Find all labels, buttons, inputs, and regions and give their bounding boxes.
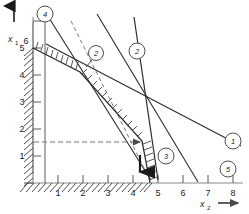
callout-1-label: 1	[231, 137, 235, 146]
x-tick-label-8: 8	[230, 188, 235, 198]
y-tick-labels: 1 2 3 4 5 6	[19, 36, 28, 161]
x-tick-label-5: 5	[155, 188, 160, 198]
callout-2a-label: 2	[134, 47, 140, 56]
x-axis-ticks	[58, 175, 233, 183]
x-tick-label-7: 7	[205, 188, 210, 198]
x-tick-label-1: 1	[55, 188, 60, 198]
callout-2b: 2	[89, 46, 104, 61]
x-axis-label-subscript: 2	[207, 205, 211, 211]
y-tick-label-2: 2	[19, 124, 24, 134]
linear-programming-feasible-region-figure: x 1 x 2 1 2 3 4 5 6 1 2 3 4 5 6 7 8	[0, 0, 249, 214]
y-axis-label: x 1	[7, 34, 19, 46]
constraint-line-2b	[44, 10, 151, 180]
x-axis-label: x 2	[199, 199, 211, 211]
callout-2a: 2	[129, 43, 145, 59]
x-tick-label-4: 4	[130, 188, 135, 198]
y-tick-label-1: 1	[19, 151, 24, 161]
y-tick-label-3: 3	[19, 97, 24, 107]
x-axis-label-text: x	[199, 199, 205, 209]
callout-1: 1	[225, 133, 241, 149]
feasible-region-boundary	[33, 42, 157, 183]
callout-5: 5	[220, 161, 236, 177]
x-tick-label-6: 6	[180, 188, 185, 198]
callout-3: 3	[158, 148, 174, 164]
y-axis-ticks	[33, 21, 41, 156]
x-tick-labels: 1 2 3 4 5 6 7 8	[55, 188, 235, 198]
callout-2b-label: 2	[93, 49, 99, 58]
y-axis-label-text: x	[7, 34, 13, 44]
objective-dashed-line	[71, 21, 144, 168]
constraint-line-3	[97, 14, 198, 182]
y-tick-label-6: 6	[23, 36, 28, 46]
y-axis-label-subscript: 1	[15, 40, 19, 46]
y-tick-label-4: 4	[19, 70, 24, 80]
callout-4: 4	[37, 6, 53, 22]
x-tick-label-2: 2	[80, 188, 85, 198]
y-axis-hatch-band	[24, 48, 33, 186]
plot-canvas: x 1 x 2 1 2 3 4 5 6 1 2 3 4 5 6 7 8	[0, 0, 249, 214]
callout-4-label: 4	[43, 10, 47, 19]
x-tick-label-3: 3	[105, 188, 110, 198]
